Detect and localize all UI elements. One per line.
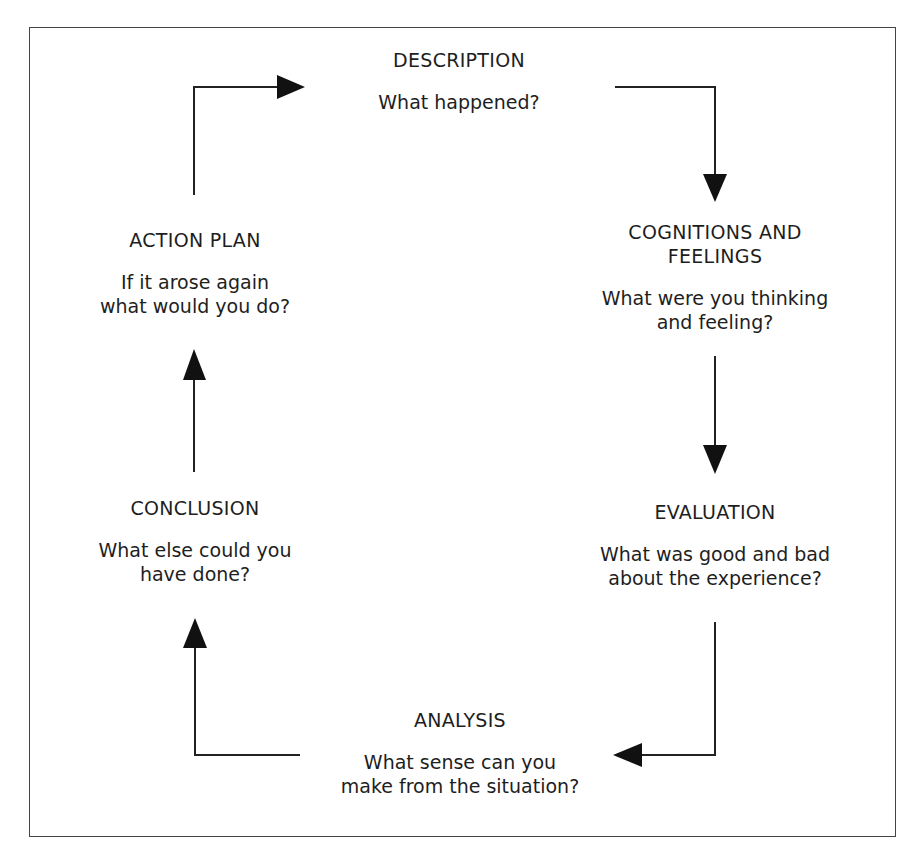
node-question: What was good and bad bbox=[585, 542, 845, 566]
node-question: what would you do? bbox=[75, 294, 315, 318]
arrowhead-up-icon bbox=[183, 349, 206, 380]
node-question: What sense can you bbox=[320, 750, 600, 774]
node-title: ACTION PLAN bbox=[75, 228, 315, 252]
node-cognitions: COGNITIONS AND FEELINGS What were you th… bbox=[585, 220, 845, 334]
node-title: ANALYSIS bbox=[320, 708, 600, 732]
node-question: What happened? bbox=[339, 90, 579, 114]
node-question: What else could you bbox=[75, 538, 315, 562]
node-title: DESCRIPTION bbox=[339, 48, 579, 72]
node-title: COGNITIONS AND bbox=[585, 220, 845, 244]
node-analysis: ANALYSIS What sense can you make from th… bbox=[320, 708, 600, 798]
node-question: about the experience? bbox=[585, 566, 845, 590]
arrowhead-right-icon bbox=[277, 75, 305, 99]
arrowhead-left-icon bbox=[613, 743, 642, 767]
node-conclusion: CONCLUSION What else could you have done… bbox=[75, 496, 315, 586]
node-question: What were you thinking bbox=[585, 286, 845, 310]
node-evaluation: EVALUATION What was good and bad about t… bbox=[585, 500, 845, 590]
arrowhead-down-icon bbox=[703, 445, 727, 474]
node-title: EVALUATION bbox=[585, 500, 845, 524]
node-title: FEELINGS bbox=[585, 244, 845, 268]
arrowhead-up-icon bbox=[183, 618, 207, 648]
node-action-plan: ACTION PLAN If it arose again what would… bbox=[75, 228, 315, 318]
node-question: have done? bbox=[75, 562, 315, 586]
node-question: and feeling? bbox=[585, 310, 845, 334]
node-title: CONCLUSION bbox=[75, 496, 315, 520]
node-question: make from the situation? bbox=[320, 774, 600, 798]
node-question: If it arose again bbox=[75, 270, 315, 294]
node-description: DESCRIPTION What happened? bbox=[339, 48, 579, 114]
arrowhead-down-icon bbox=[703, 174, 727, 202]
